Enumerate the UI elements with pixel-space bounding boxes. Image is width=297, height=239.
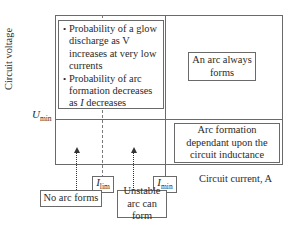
notes-list: Probability of a glow discharge as V inc… <box>63 23 160 110</box>
inductance-dependent-text: Arc formation dependant upon the circuit… <box>178 124 276 162</box>
no-arc-forms-text: No arc forms <box>44 192 99 205</box>
no-arc-arrow <box>76 152 77 190</box>
no-arc-forms-box: No arc forms <box>40 190 102 207</box>
u-min-line <box>55 119 283 120</box>
arc-always-forms-text: An arc always forms <box>189 54 255 79</box>
u-min-label: Umin <box>32 108 52 123</box>
unstable-arc-box: Unstable arc can form <box>117 190 167 218</box>
inductance-dependent-box: Arc formation dependant upon the circuit… <box>174 123 280 163</box>
arc-always-forms-box: An arc always forms <box>188 52 256 81</box>
arrow-up-icon <box>74 147 80 153</box>
arrow-up-icon <box>131 147 137 153</box>
x-axis-label: Circuit current, A <box>199 173 272 184</box>
unstable-arc-text: Unstable arc can form <box>118 185 166 223</box>
y-axis-label: Circuit voltage <box>3 28 14 90</box>
glow-discharge-notes-box: Probability of a glow discharge as V inc… <box>58 20 164 109</box>
note-arc-probability: Probability of arc formation decreases a… <box>63 73 160 110</box>
note-glow-discharge: Probability of a glow discharge as V inc… <box>63 23 160 73</box>
i-min-line <box>165 15 166 178</box>
